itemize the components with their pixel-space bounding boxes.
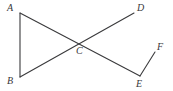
- vertex-label-c: C: [76, 46, 83, 56]
- vertex-label-f: F: [157, 42, 163, 52]
- vertex-label-e: E: [136, 79, 142, 89]
- vertex-label-b: B: [7, 76, 13, 86]
- vertex-label-d: D: [137, 3, 144, 13]
- vertex-label-a: A: [7, 3, 13, 13]
- segment-group: [20, 13, 155, 77]
- geometry-figure: A B C D E F: [0, 0, 173, 91]
- geometry-canvas: [0, 0, 173, 91]
- segment-ef: [140, 52, 155, 76]
